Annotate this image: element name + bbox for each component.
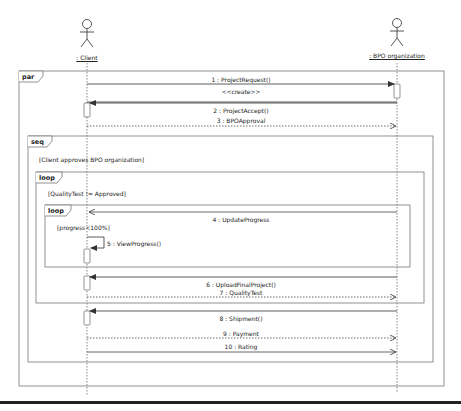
msg-6-label: 6 : UploadFinalProject() (206, 281, 276, 288)
frame-loop-outer-tag: loop (39, 174, 55, 182)
frame-seq-tag: seq (31, 138, 44, 146)
msg-10-label: 10 : Rating (225, 343, 258, 350)
msg-7-label: 7 : QualityTest (220, 289, 263, 296)
guard-loop-inner: [progress<100%] (57, 224, 110, 231)
msg-1-label: 1 : ProjectRequest() (211, 76, 270, 83)
msg-3-label: 3 : BPOApproval (217, 117, 266, 124)
activation-bpo-1 (394, 84, 400, 98)
msg-5-label: 5 : ViewProgress() (107, 240, 161, 247)
actor-bpo-icon (390, 19, 404, 47)
guard-loop-outer: [QualityTest != Approved] (48, 190, 126, 197)
bottom-divider (0, 401, 461, 404)
frame-loop-inner-tag: loop (48, 207, 64, 215)
activation-client-3 (84, 276, 90, 290)
msg-9-label: 9 : Payment (223, 330, 259, 337)
guard-seq: [Client approves BPO organization] (39, 156, 144, 163)
actor-client-icon (80, 20, 94, 48)
msg-4-label: 4 : UpdateProgress (213, 216, 270, 223)
msg-create-label: <<create>> (221, 88, 260, 95)
actor-bpo-label: : BPO organization (369, 52, 425, 59)
activation-client-2 (84, 249, 90, 263)
msg-2-label: 2 : ProjectAccept() (213, 107, 268, 114)
actor-client-label: : Client (76, 54, 97, 61)
msg-5-self-arrow (87, 237, 104, 248)
msg-8-label: 8 : Shipment() (219, 315, 262, 322)
frame-par-tag: par (22, 73, 34, 81)
frame-loop-inner (45, 205, 410, 267)
activation-client-4 (84, 311, 90, 325)
activation-client-1 (84, 103, 90, 117)
